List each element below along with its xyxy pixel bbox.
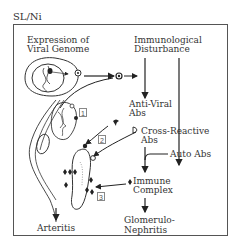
antibody-icon [133,127,137,133]
antibody-icon [83,144,87,148]
immune-complex-icon [63,169,132,195]
antibody-icon [91,156,96,161]
vessel-wall-icon [29,100,64,222]
diagram-graphics [0,0,234,245]
antibody-icon [113,120,119,127]
infected-tissue-cell-icon [51,102,78,139]
endothelium-icon [71,149,90,209]
infected-cell-icon [25,58,81,96]
virus-particle-icon [116,73,122,79]
